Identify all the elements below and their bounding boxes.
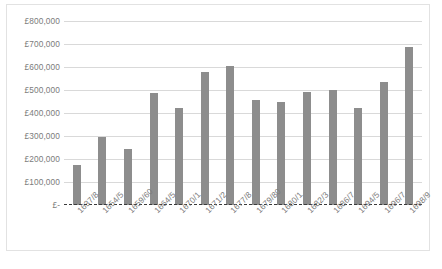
x-axis-slot: 1664/5 — [141, 205, 167, 251]
y-axis-tick-label: £400,000 — [25, 108, 60, 118]
x-axis-slot: 1679/80 — [243, 205, 269, 251]
bar — [175, 108, 183, 205]
bar-slot — [192, 21, 218, 205]
bar — [252, 100, 260, 205]
bar-slot — [397, 21, 423, 205]
y-axis-tick-label: £600,000 — [25, 62, 60, 72]
y-axis-tick-label: £300,000 — [25, 131, 60, 141]
bar-series — [64, 21, 422, 205]
bar — [405, 47, 413, 205]
x-axis-slot: 1659/60 — [115, 205, 141, 251]
bar-slot — [243, 21, 269, 205]
bar-slot — [217, 21, 243, 205]
bar-slot — [269, 21, 295, 205]
bar — [226, 66, 234, 205]
bar — [380, 82, 388, 205]
y-axis: £800,000£700,000£600,000£500,000£400,000… — [7, 21, 60, 205]
bar-slot — [166, 21, 192, 205]
bar — [73, 165, 81, 205]
y-axis-tick-label: £700,000 — [25, 39, 60, 49]
x-axis-slot: 1637/8 — [64, 205, 90, 251]
bar-slot — [115, 21, 141, 205]
x-axis-slot: 1654/5 — [90, 205, 116, 251]
x-axis-slot: 1670/1 — [166, 205, 192, 251]
bar — [354, 108, 362, 205]
bar-slot — [320, 21, 346, 205]
bar — [329, 90, 337, 205]
y-axis-tick-label: £200,000 — [25, 154, 60, 164]
bar — [303, 92, 311, 205]
bar-slot — [64, 21, 90, 205]
x-axis: 1637/81654/51659/601664/51670/11671/2167… — [64, 205, 422, 251]
x-axis-slot: 1680/1 — [269, 205, 295, 251]
x-axis-slot: 1698/9 — [397, 205, 423, 251]
y-axis-tick-label: £500,000 — [25, 85, 60, 95]
bar-slot — [371, 21, 397, 205]
x-axis-slot: 1677/8 — [217, 205, 243, 251]
x-axis-slot: 1696/7 — [371, 205, 397, 251]
bar-chart-figure: £800,000£700,000£600,000£500,000£400,000… — [6, 4, 430, 251]
x-axis-slot: 1682/3 — [294, 205, 320, 251]
bar-slot — [141, 21, 167, 205]
bar-slot — [345, 21, 371, 205]
y-axis-tick-label: £800,000 — [25, 16, 60, 26]
y-axis-tick-label: £- — [52, 200, 60, 210]
x-axis-slot: 1686/7 — [320, 205, 346, 251]
bar-slot — [90, 21, 116, 205]
y-axis-tick-label: £100,000 — [25, 177, 60, 187]
bar-slot — [294, 21, 320, 205]
x-axis-slot: 1694/5 — [345, 205, 371, 251]
bar — [201, 72, 209, 205]
plot-area — [64, 21, 422, 205]
x-axis-slot: 1671/2 — [192, 205, 218, 251]
